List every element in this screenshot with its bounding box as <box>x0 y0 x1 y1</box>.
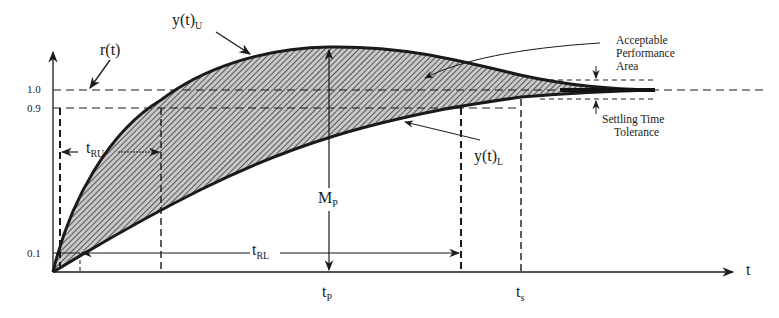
x-axis-label: t <box>746 262 750 278</box>
y-tick-0-1: 0.1 <box>27 248 41 259</box>
reference-pointer-arrow <box>90 60 110 88</box>
peak-time-label: tP <box>322 284 332 303</box>
acceptable-area-note: Acceptable Performance Area <box>616 34 675 73</box>
lower-bound-label: y(t)L <box>474 148 503 167</box>
y-tick-0-9: 0.9 <box>27 103 41 114</box>
upper-bound-label: y(t)U <box>172 12 202 31</box>
settling-tolerance-note: Settling Time Tolerance <box>602 113 664 139</box>
acceptable-performance-region <box>53 47 655 272</box>
settling-time-label: ts <box>516 284 524 303</box>
rise-time-lower-label: tRL <box>252 242 269 261</box>
reference-label: r(t) <box>100 42 120 58</box>
lower-bound-pointer-arrow <box>405 122 480 140</box>
peak-overshoot-label: MP <box>318 188 338 211</box>
upper-bound-pointer-arrow <box>216 32 250 54</box>
y-tick-1-0: 1.0 <box>27 84 41 95</box>
rise-time-upper-label: tRU <box>86 140 104 159</box>
